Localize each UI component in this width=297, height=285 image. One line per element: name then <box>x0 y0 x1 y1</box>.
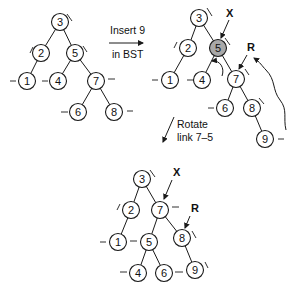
svg-text:3: 3 <box>57 16 63 28</box>
step-insert-label-line1: Insert 9 <box>110 24 145 36</box>
curved-path-arrow-icon <box>254 58 286 130</box>
svg-text:1: 1 <box>167 74 173 86</box>
svg-text:8: 8 <box>111 106 117 118</box>
down-left-arrow-icon <box>163 117 174 142</box>
svg-text:3: 3 <box>139 173 145 185</box>
tree-node: 9 <box>187 262 204 279</box>
svg-text:1: 1 <box>115 236 121 248</box>
tree-node: 4 <box>50 73 67 90</box>
svg-text:2: 2 <box>38 47 44 59</box>
pointer-x-label: X <box>226 7 234 19</box>
step-rotate-label-line1: Rotate <box>177 118 208 130</box>
tree-node-highlighted: 5 <box>210 40 227 57</box>
pointer-r-arrow-icon <box>185 216 190 228</box>
svg-text:8: 8 <box>179 232 185 244</box>
svg-text:4: 4 <box>135 267 141 279</box>
svg-text:1: 1 <box>24 75 30 87</box>
tree-node: 4 <box>194 72 211 89</box>
tree-node: 8 <box>106 104 123 121</box>
svg-text:9: 9 <box>262 133 268 145</box>
svg-text:6: 6 <box>161 267 167 279</box>
svg-text:8: 8 <box>249 102 255 114</box>
svg-text:7: 7 <box>93 75 99 87</box>
tree-node: 5 <box>141 234 158 251</box>
tree-node: 1 <box>19 73 36 90</box>
svg-text:6: 6 <box>222 102 228 114</box>
tree-node: 8 <box>174 230 191 247</box>
tree-node: 5 <box>67 45 84 62</box>
tree-node: 1 <box>162 72 179 89</box>
pointer-x-arrow-icon <box>221 20 229 38</box>
tree-node: 6 <box>217 100 234 117</box>
tree-node: 4 <box>130 265 147 282</box>
tree-node: 6 <box>70 104 87 121</box>
svg-text:2: 2 <box>128 204 134 216</box>
svg-text:7: 7 <box>157 204 163 216</box>
pointer-r-label: R <box>191 202 199 214</box>
svg-text:5: 5 <box>215 42 221 54</box>
tree-node: 2 <box>123 202 140 219</box>
tree-node: 8 <box>244 100 261 117</box>
tree-node: 2 <box>33 45 50 62</box>
tree-node: 6 <box>156 265 173 282</box>
bst-rotation-diagram: 3 2 5 1 4 7 6 8 Insert 9 in BST 3 2 5 <box>0 0 297 285</box>
tree-node: 3 <box>134 171 151 188</box>
pointer-r-arrow-icon <box>239 55 247 69</box>
pointer-x-label: X <box>173 166 181 178</box>
tree-node: 3 <box>52 14 69 31</box>
svg-text:5: 5 <box>72 47 78 59</box>
tree-node: 1 <box>110 234 127 251</box>
tree-node: 7 <box>88 73 105 90</box>
svg-text:2: 2 <box>185 42 191 54</box>
tree-node: 3 <box>191 10 208 27</box>
step-rotate-label-line2: link 7–5 <box>177 131 213 143</box>
svg-text:4: 4 <box>55 75 61 87</box>
tree-after-rotate: 3 2 7 1 5 8 4 6 9 X R <box>100 166 208 282</box>
tree-node: 9 <box>257 131 274 148</box>
tree-node: 7 <box>152 202 169 219</box>
svg-text:5: 5 <box>146 236 152 248</box>
tree-node: 2 <box>180 40 197 57</box>
curved-arrow-icon <box>212 61 223 76</box>
step-insert-label-line2: in BST <box>112 48 144 60</box>
svg-text:6: 6 <box>75 106 81 118</box>
tree-node: 7 <box>228 71 245 88</box>
svg-text:4: 4 <box>199 74 205 86</box>
svg-text:3: 3 <box>196 12 202 24</box>
step-insert: Insert 9 in BST <box>109 24 145 60</box>
pointer-x-arrow-icon <box>164 180 172 199</box>
svg-text:7: 7 <box>233 73 239 85</box>
svg-text:9: 9 <box>192 264 198 276</box>
tree-after-insert: 3 2 5 1 4 7 6 8 9 X R <box>152 7 286 148</box>
pointer-r-label: R <box>247 41 255 53</box>
step-rotate: Rotate link 7–5 <box>163 117 213 143</box>
